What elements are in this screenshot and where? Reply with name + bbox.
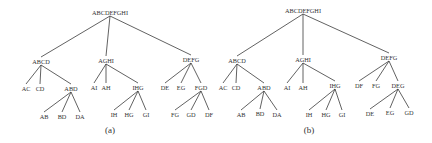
tree-edge: [26, 65, 41, 84]
tree-edge: [309, 89, 335, 110]
tree-edge: [303, 63, 335, 81]
tree-node-label: BD: [256, 110, 265, 117]
tree-node-label: DEFG: [183, 56, 200, 63]
tree-node-label: HG: [321, 111, 331, 118]
tree-edge: [41, 16, 110, 57]
tree-edge: [191, 91, 201, 110]
tree-node-label: AGHI: [98, 57, 114, 64]
tree-node-label: EG: [177, 84, 186, 91]
tree-edge: [129, 91, 138, 110]
tree-edge: [71, 92, 80, 112]
tree-edge: [191, 63, 201, 83]
tree-edge: [237, 64, 264, 83]
tree-node-label: DE: [366, 110, 375, 117]
tree-node-label: AB: [237, 111, 246, 118]
tree-node-label: AI: [91, 84, 98, 91]
tree-edge: [223, 64, 237, 83]
tree-node-label: IH: [306, 111, 313, 118]
tree-node-label: FG: [372, 82, 381, 89]
tree-edge: [114, 91, 138, 110]
tree-node-label: AC: [22, 85, 31, 92]
tree-node-label: HG: [124, 111, 134, 118]
tree-node-label: AB: [40, 113, 49, 120]
tree-edge: [110, 16, 191, 55]
tree-node-label: GD: [404, 109, 414, 116]
tree-node-label: DF: [205, 111, 214, 118]
panel-caption: (a): [105, 125, 115, 135]
tree-edge: [44, 92, 71, 112]
tree-node-label: EG: [386, 109, 395, 116]
tree-edge: [106, 16, 110, 56]
tree-node-label: DA: [75, 113, 85, 120]
panel-caption: (b): [304, 125, 315, 135]
tree-node-label: AH: [298, 84, 308, 91]
tree-edge: [303, 14, 389, 53]
tree-node-label: AI: [284, 84, 291, 91]
tree-edge: [181, 63, 191, 83]
tree-edge: [40, 65, 41, 84]
tree-edge: [175, 91, 201, 110]
tree-edge: [236, 64, 237, 83]
tree-edge: [106, 64, 138, 83]
tree-edge: [376, 61, 389, 81]
tree-node-label: DEFG: [381, 54, 398, 61]
tree-node-label: FGD: [195, 84, 208, 91]
tree-edge: [165, 63, 191, 83]
tree-node-label: GD: [186, 111, 196, 118]
tree-node-label: DF: [355, 82, 364, 89]
tree-diagram: ABCDEFGHIABCDAGHIDEFGACCDABDAIAHIHGDEEGF…: [0, 0, 432, 143]
tree-node-label: DEG: [392, 82, 405, 89]
tree-node-label: ABD: [257, 84, 271, 91]
tree-edge: [41, 65, 71, 84]
tree-node-label: AH: [101, 84, 111, 91]
tree-edge: [335, 89, 342, 110]
tree-panel-b: ABCDEFGHIABCDAGHIDEFGACCDABDAIAHIHGDFFGD…: [219, 7, 414, 135]
tree-edge: [94, 64, 106, 83]
tree-node-label: CD: [232, 84, 241, 91]
tree-node-label: AC: [219, 84, 228, 91]
tree-panel-a: ABCDEFGHIABCDAGHIDEFGACCDABDAIAHIHGDEEGF…: [22, 9, 214, 135]
tree-node-label: ABCD: [228, 57, 246, 64]
tree-edge: [359, 61, 389, 81]
tree-node-label: IHG: [329, 82, 341, 89]
tree-edge: [389, 61, 398, 81]
tree-node-label: DA: [272, 111, 282, 118]
tree-node-label: GI: [143, 111, 150, 118]
tree-edge: [138, 91, 146, 110]
tree-node-label: DE: [161, 84, 170, 91]
tree-node-label: AGHI: [295, 56, 311, 63]
tree-edge: [237, 14, 303, 56]
tree-node-label: ABCDEFGHI: [285, 7, 321, 14]
tree-node-label: IH: [111, 111, 118, 118]
tree-node-label: GI: [339, 111, 346, 118]
tree-edge: [398, 89, 409, 108]
tree-edge: [201, 91, 209, 110]
tree-node-label: CD: [36, 85, 45, 92]
tree-node-label: FG: [171, 111, 180, 118]
tree-node-label: BD: [58, 113, 67, 120]
tree-node-label: IHG: [132, 84, 144, 91]
tree-edge: [264, 91, 277, 110]
tree-node-label: ABCD: [32, 58, 50, 65]
tree-node-label: ABCDEFGHI: [92, 9, 128, 16]
tree-node-label: ABD: [64, 85, 78, 92]
tree-edge: [287, 63, 303, 83]
